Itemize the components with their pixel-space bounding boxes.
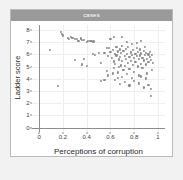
scatter-point — [74, 59, 76, 61]
scatter-point — [100, 80, 102, 82]
scatter-point — [144, 45, 146, 47]
scatter-point — [119, 48, 121, 50]
x-axis-title: Perceptions of corruption — [32, 147, 165, 156]
gridline-horizontal — [32, 30, 165, 31]
scatter-point — [138, 82, 140, 84]
y-tick-mark — [30, 103, 32, 104]
chart-panel: cases Ladder score 01234567800.20.40.60.… — [10, 9, 173, 157]
y-axis-title: Ladder score — [12, 21, 23, 133]
scatter-point — [137, 51, 139, 53]
scatter-point — [107, 55, 109, 57]
x-tick-mark — [134, 132, 135, 134]
scatter-point — [122, 50, 124, 52]
scatter-point — [140, 63, 142, 65]
scatter-point — [127, 46, 129, 48]
gridline-vertical — [158, 25, 159, 132]
gridline-horizontal — [32, 42, 165, 43]
scatter-point — [118, 58, 120, 60]
y-axis-line — [39, 25, 40, 132]
gridline-vertical — [110, 25, 111, 132]
scatter-point — [148, 56, 150, 58]
scatter-point — [100, 62, 102, 64]
gridline-horizontal — [32, 91, 165, 92]
scatter-point — [152, 62, 154, 64]
scatter-point — [113, 67, 115, 69]
scatter-point — [49, 49, 51, 51]
scatter-point — [134, 61, 136, 63]
scatter-point — [115, 46, 117, 48]
scatter-point — [112, 72, 114, 74]
scatter-point — [131, 53, 133, 55]
scatter-point — [116, 71, 118, 73]
scatter-point — [151, 54, 153, 56]
scatter-point — [138, 58, 140, 60]
scatter-point — [146, 58, 148, 60]
scatter-point — [129, 60, 131, 62]
scatter-point — [135, 55, 137, 57]
y-tick-label: 2 — [26, 100, 29, 106]
y-tick-mark — [30, 29, 32, 30]
scatter-point — [113, 36, 115, 38]
scatter-point — [106, 70, 108, 72]
y-tick-mark — [30, 78, 32, 79]
y-tick-label: 0 — [26, 125, 29, 131]
scatter-point — [146, 72, 148, 74]
y-tick-label: 1 — [26, 112, 29, 118]
x-tick-mark — [86, 132, 87, 134]
scatter-point — [147, 84, 149, 86]
scatter-point — [122, 69, 124, 71]
scatter-point — [127, 62, 129, 64]
y-tick-mark — [30, 42, 32, 43]
scatter-point — [128, 68, 130, 70]
x-tick-label: 1 — [156, 134, 159, 140]
panel-title-bar: cases — [11, 10, 172, 21]
scatter-point — [83, 58, 85, 60]
y-tick-mark — [30, 66, 32, 67]
scatter-point — [141, 67, 143, 69]
y-tick-label: 5 — [26, 64, 29, 70]
chart-body: Ladder score 01234567800.20.40.60.81 Per… — [11, 21, 172, 156]
y-tick-label: 7 — [26, 39, 29, 45]
scatter-point — [135, 47, 137, 49]
scatter-point — [126, 73, 128, 75]
gridline-horizontal — [32, 115, 165, 116]
scatter-point — [121, 60, 123, 62]
scatter-point — [131, 42, 133, 44]
scatter-point — [121, 36, 123, 38]
scatter-point — [112, 49, 114, 51]
scatter-point — [107, 74, 109, 76]
scatter-point — [119, 56, 121, 58]
scatter-point — [114, 63, 116, 65]
scatter-point — [150, 59, 152, 61]
y-tick-mark — [30, 91, 32, 92]
panel-title-text: cases — [83, 10, 100, 21]
plot-area: 01234567800.20.40.60.81 — [32, 25, 165, 132]
gridline-horizontal — [32, 67, 165, 68]
scatter-point — [150, 95, 152, 97]
x-tick-label: 0.6 — [106, 134, 114, 140]
gridline-vertical — [63, 25, 64, 132]
y-tick-label: 3 — [26, 88, 29, 94]
y-tick-label: 6 — [26, 51, 29, 57]
x-tick-label: 0.4 — [82, 134, 90, 140]
gridline-horizontal — [32, 103, 165, 104]
x-tick-label: 0.8 — [130, 134, 138, 140]
x-tick-mark — [110, 132, 111, 134]
scatter-point — [114, 79, 116, 81]
scatter-point — [143, 86, 145, 88]
scatter-point — [150, 88, 152, 90]
scatter-point — [121, 45, 123, 47]
scatter-point — [144, 54, 146, 56]
scatter-point — [110, 57, 112, 59]
x-tick-mark — [62, 132, 63, 134]
scatter-point — [103, 79, 105, 81]
scatter-point — [143, 59, 145, 61]
scatter-point — [139, 48, 141, 50]
scatter-point — [125, 58, 127, 60]
y-tick-label: 8 — [26, 27, 29, 33]
x-tick-mark — [157, 132, 158, 134]
x-tick-mark — [39, 132, 40, 134]
x-axis-line — [32, 128, 165, 129]
y-tick-label: 4 — [26, 76, 29, 82]
scatter-point — [118, 66, 120, 68]
